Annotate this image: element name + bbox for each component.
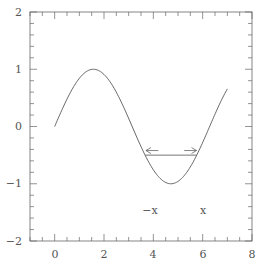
label-minus-x: −x — [142, 204, 158, 217]
x-tick-label-2: 2 — [101, 248, 108, 261]
y-tick-label-0: 0 — [15, 120, 22, 133]
y-tick-label-neg2: −2 — [6, 235, 22, 248]
label-x: x — [200, 204, 207, 217]
plot-frame — [30, 12, 252, 241]
annotations — [145, 148, 197, 156]
x-tick-label-6: 6 — [200, 248, 207, 261]
y-tick-label-2: 2 — [15, 6, 22, 19]
axis-ticks — [30, 12, 252, 241]
y-tick-label-1: 1 — [15, 63, 22, 76]
x-tick-label-4: 4 — [150, 248, 157, 261]
sine-curve — [55, 69, 228, 184]
x-tick-label-0: 0 — [52, 248, 59, 261]
x-tick-label-8: 8 — [249, 248, 256, 261]
sine-plot: 0 2 4 6 8 2 1 0 −1 −2 −x x — [0, 0, 260, 266]
y-tick-label-neg1: −1 — [6, 177, 22, 190]
